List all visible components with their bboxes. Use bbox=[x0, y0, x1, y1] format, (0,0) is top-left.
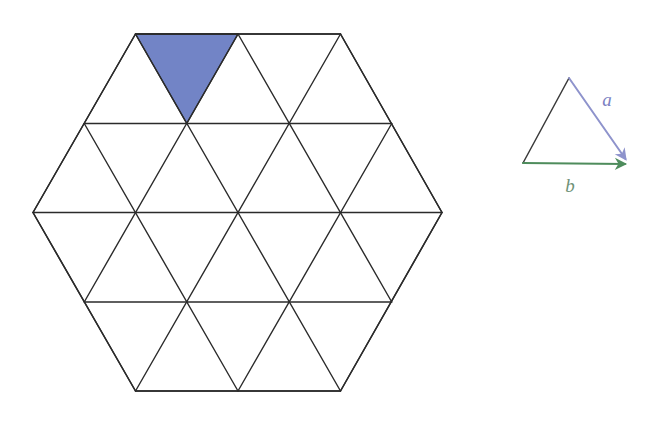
grid-diag-dl-4 bbox=[238, 124, 392, 392]
shaded-unit-triangle[interactable] bbox=[136, 34, 239, 124]
grid-diag-dr-4 bbox=[84, 124, 238, 392]
figure-canvas: a b bbox=[0, 0, 650, 421]
vector-a-label: a bbox=[602, 89, 612, 110]
figure-root: a b bbox=[0, 0, 650, 421]
vector-b-label: b bbox=[565, 175, 575, 196]
hexagon-triangular-grid bbox=[33, 34, 442, 391]
vector-a-arrow[interactable] bbox=[569, 78, 626, 159]
vector-diagram: a b bbox=[523, 78, 626, 196]
grid-diag-dr-2 bbox=[238, 34, 392, 302]
vector-b-arrow[interactable] bbox=[523, 163, 625, 164]
vector-triangle-left-edge bbox=[523, 78, 569, 163]
